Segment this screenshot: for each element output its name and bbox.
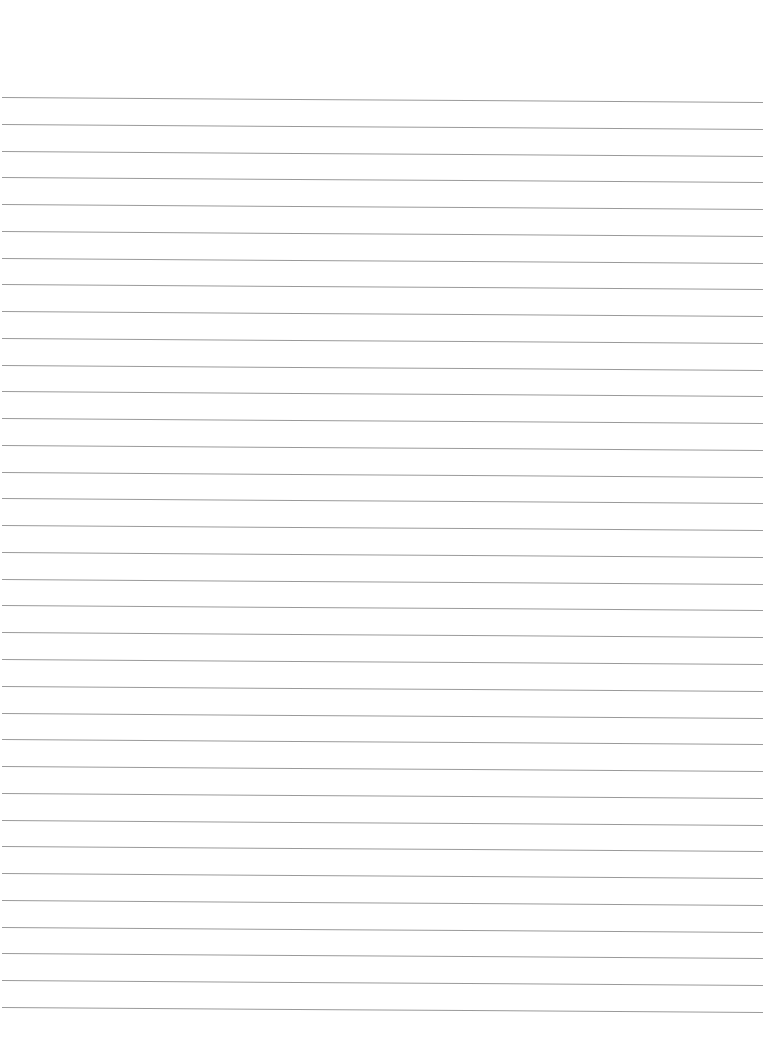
ruled-line [2, 846, 763, 852]
ruled-line [2, 900, 763, 906]
ruled-line [2, 231, 763, 237]
ruled-line [2, 284, 763, 290]
ruled-line [2, 1007, 763, 1013]
ruled-line [2, 498, 763, 504]
ruled-line [2, 365, 763, 371]
ruled-line [2, 258, 763, 264]
ruled-line [2, 124, 763, 130]
ruled-line [2, 151, 763, 157]
ruled-line [2, 311, 763, 317]
ruled-line [2, 686, 763, 692]
ruled-line [2, 605, 763, 611]
ruled-line [2, 739, 763, 745]
ruled-line [2, 97, 763, 103]
lined-paper-page [0, 0, 767, 1058]
ruled-line [2, 552, 763, 558]
ruled-line [2, 659, 763, 665]
ruled-line [2, 391, 763, 397]
ruled-line [2, 793, 763, 799]
ruled-line [2, 472, 763, 478]
ruled-line [2, 953, 763, 959]
ruled-line [2, 204, 763, 210]
ruled-line [2, 177, 763, 183]
ruled-line [2, 632, 763, 638]
ruled-line [2, 525, 763, 531]
ruled-line [2, 873, 763, 879]
ruled-line [2, 820, 763, 826]
ruled-line [2, 713, 763, 719]
ruled-line [2, 579, 763, 585]
ruled-line [2, 766, 763, 772]
ruled-lines [0, 0, 767, 1058]
ruled-line [2, 445, 763, 451]
ruled-line [2, 980, 763, 986]
ruled-line [2, 927, 763, 933]
ruled-line [2, 418, 763, 424]
ruled-line [2, 338, 763, 344]
